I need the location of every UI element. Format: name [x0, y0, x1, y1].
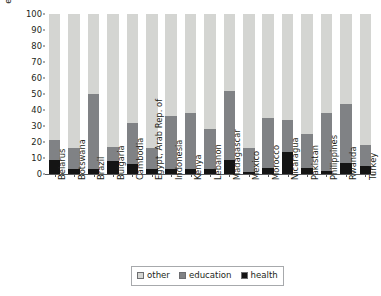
x-tick-label: Egypt, Arab Rep. of — [155, 99, 163, 180]
stacked-bar — [185, 14, 197, 174]
x-tick-mark — [326, 174, 327, 177]
legend-swatch-icon — [241, 272, 248, 279]
x-tick-mark — [152, 174, 153, 177]
legend-swatch-icon — [137, 272, 144, 279]
bar-segment-other — [243, 14, 255, 148]
bar-segment-other — [88, 14, 100, 94]
legend-label: other — [147, 271, 170, 280]
bar-segment-other — [301, 14, 313, 134]
x-tick-mark — [268, 174, 269, 177]
x-tick-label: Indonesia — [175, 139, 183, 180]
x-tick-mark — [171, 174, 172, 177]
y-tick-label: 0 — [12, 170, 42, 178]
bar-segment-other — [165, 14, 177, 116]
y-tick-mark — [43, 78, 46, 79]
x-tick-label: Cambodia — [136, 138, 144, 180]
x-tick-label: Bulgaria — [117, 145, 125, 180]
y-tick-label: 20 — [12, 138, 42, 146]
bar-segment-other — [321, 14, 333, 113]
x-tick-mark — [229, 174, 230, 177]
x-tick-mark — [249, 174, 250, 177]
bar-segment-other — [224, 14, 236, 91]
y-tick-mark — [43, 14, 46, 15]
y-tick-label: 60 — [12, 74, 42, 82]
bar-segment-other — [204, 14, 216, 129]
x-tick-label: Nicaragua — [291, 137, 299, 180]
x-tick-label: Pakistan — [311, 145, 319, 180]
plot-area: 0102030405060708090100 — [45, 14, 375, 174]
y-tick-mark — [43, 142, 46, 143]
bar-segment-other — [68, 14, 80, 148]
bar-segment-other — [127, 14, 139, 123]
stacked-bar — [88, 14, 100, 174]
x-tick-mark — [346, 174, 347, 177]
legend-label: health — [251, 271, 278, 280]
x-tick-mark — [55, 174, 56, 177]
legend-label: education — [189, 271, 232, 280]
y-tick-mark — [43, 30, 46, 31]
bar-segment-other — [282, 14, 294, 120]
y-tick-label: 10 — [12, 154, 42, 162]
bar-segment-other — [340, 14, 352, 104]
y-tick-mark — [43, 46, 46, 47]
y-tick-label: 30 — [12, 122, 42, 130]
y-tick-label: 100 — [12, 10, 42, 18]
x-tick-mark — [307, 174, 308, 177]
x-tick-label: Philippines — [330, 135, 338, 180]
x-tick-label: Botswana — [78, 139, 86, 180]
x-tick-label: Kenya — [194, 154, 202, 180]
x-tick-mark — [132, 174, 133, 177]
x-tick-label: Rwanda — [349, 146, 357, 180]
legend-item: health — [241, 271, 278, 280]
y-tick-mark — [43, 158, 46, 159]
x-tick-label: Belarus — [58, 149, 66, 180]
x-tick-mark — [113, 174, 114, 177]
chart-legend: othereducationhealth — [131, 266, 284, 286]
x-tick-label: Mexico — [252, 151, 260, 180]
y-tick-mark — [43, 126, 46, 127]
y-tick-label: 80 — [12, 42, 42, 50]
x-tick-mark — [74, 174, 75, 177]
x-tick-mark — [191, 174, 192, 177]
y-tick-label: 70 — [12, 58, 42, 66]
x-tick-mark — [365, 174, 366, 177]
legend-item: other — [137, 271, 170, 280]
x-tick-label: Lebanon — [214, 144, 222, 180]
x-tick-mark — [94, 174, 95, 177]
bar-segment-other — [360, 14, 372, 145]
bar-segment-other — [262, 14, 274, 118]
legend-item: education — [179, 271, 232, 280]
x-tick-label: Turkey — [369, 153, 377, 180]
bar-segment-other — [49, 14, 61, 140]
y-tick-label: 90 — [12, 26, 42, 34]
chart-figure: employee distribution (%) 01020304050607… — [0, 0, 381, 296]
bar-segment-other — [185, 14, 197, 113]
y-tick-label: 40 — [12, 106, 42, 114]
legend-swatch-icon — [179, 272, 186, 279]
bar-segment-other — [107, 14, 119, 147]
y-tick-mark — [43, 62, 46, 63]
x-tick-label: Morocco — [272, 145, 280, 180]
y-tick-mark — [43, 94, 46, 95]
x-tick-mark — [288, 174, 289, 177]
y-tick-mark — [43, 110, 46, 111]
y-tick-label: 50 — [12, 90, 42, 98]
stacked-bar — [360, 14, 372, 174]
x-tick-mark — [210, 174, 211, 177]
x-tick-label: Madagascar — [233, 129, 241, 180]
x-tick-label: Brazil — [97, 157, 105, 180]
